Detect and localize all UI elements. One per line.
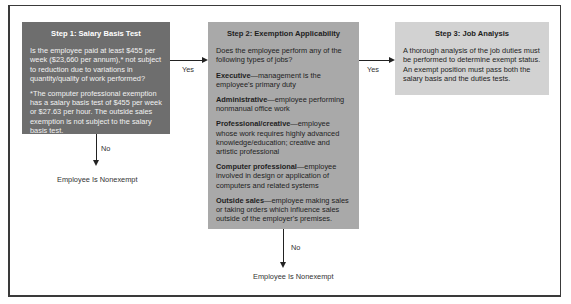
step1-title: Step 1: Salary Basis Test	[30, 29, 162, 38]
arrow-right-icon	[202, 57, 208, 63]
category-name: Computer professional	[216, 162, 297, 171]
step3-job-analysis-box: Step 3: Job Analysis A thorough analysis…	[395, 22, 549, 95]
category-professional-creative: Professional/creative—employee whose wor…	[216, 119, 351, 156]
arrow-down-icon	[280, 262, 286, 268]
connector-step2-no	[283, 229, 284, 262]
connector-step2-step3	[359, 60, 389, 61]
category-executive: Executive—management is the employee's p…	[216, 71, 351, 89]
arrow-down-icon	[93, 160, 99, 166]
arrow-right-icon	[389, 57, 395, 63]
step1-salary-basis-box: Step 1: Salary Basis Test Is the employe…	[22, 22, 170, 134]
category-name: Executive	[216, 71, 251, 80]
yes-label-2: Yes	[367, 65, 379, 74]
step2-title: Step 2: Exemption Applicability	[216, 29, 351, 38]
category-administrative: Administrative—employee performing nonma…	[216, 95, 351, 113]
step3-text: A thorough analysis of the job duties mu…	[403, 46, 541, 83]
outcome-nonexempt-2: Employee Is Nonexempt	[253, 272, 334, 281]
step1-question: Is the employee paid at least $455 per w…	[30, 46, 162, 83]
step3-title: Step 3: Job Analysis	[403, 29, 541, 38]
step2-question: Does the employee perform any of the fol…	[216, 46, 351, 64]
no-label-1: No	[101, 144, 110, 153]
category-name: Outside sales	[216, 196, 264, 205]
category-computer-professional: Computer professional—employee involved …	[216, 162, 351, 190]
step1-footnote: *The computer professional exemption has…	[30, 89, 162, 135]
connector-step1-step2	[170, 60, 202, 61]
outcome-nonexempt-1: Employee Is Nonexempt	[57, 175, 138, 184]
category-name: Professional/creative	[216, 119, 290, 128]
no-label-2: No	[291, 243, 300, 252]
connector-step1-no	[96, 134, 97, 160]
category-name: Administrative	[216, 95, 267, 104]
yes-label-1: Yes	[182, 65, 194, 74]
step2-exemption-box: Step 2: Exemption Applicability Does the…	[208, 22, 359, 229]
category-outside-sales: Outside sales—employee making sales or t…	[216, 196, 351, 224]
